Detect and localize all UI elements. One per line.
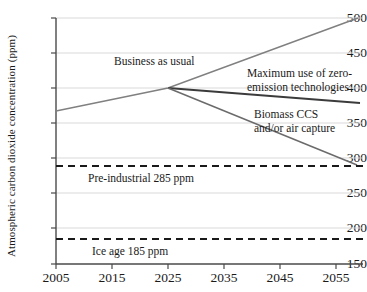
annotation-preindustrial: Pre-industrial 285 ppm: [88, 172, 194, 186]
co2-concentration-chart: Atmospheric carbon dioxide concentration…: [0, 0, 367, 292]
annotation-max-zero-emission-line1: Maximum use of zero-: [247, 67, 352, 81]
axis-lines: [56, 18, 363, 264]
series-business-as-usual: [56, 18, 358, 111]
annotation-business-as-usual: Business as usual: [114, 55, 195, 69]
y-axis-ticks: [51, 18, 56, 264]
annotation-ice-age: Ice age 185 ppm: [92, 245, 168, 259]
x-axis-ticks: [56, 264, 336, 269]
annotation-biomass-ccs-line1: Biomass CCS: [254, 108, 318, 122]
annotation-biomass-ccs-line2: and/or air capture: [254, 122, 335, 136]
annotation-max-zero-emission-line2: emission technologies: [247, 81, 349, 95]
plot-area: [0, 0, 367, 292]
